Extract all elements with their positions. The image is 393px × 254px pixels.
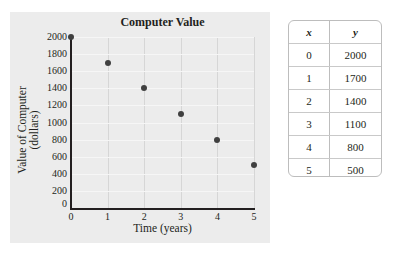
gridline-horizontal (71, 105, 254, 106)
y-axis-label-line1: Value of Computer (16, 75, 28, 185)
y-axis (70, 37, 72, 209)
data-point (178, 111, 184, 117)
cell-x: 3 (289, 113, 330, 136)
data-point (68, 34, 74, 40)
table-row: 21400 (289, 90, 381, 113)
x-tick-label: 4 (211, 211, 223, 222)
gridline-horizontal (71, 37, 254, 38)
gridline-horizontal (71, 123, 254, 124)
y-tick-label: 1800 (27, 49, 67, 59)
x-tick-label: 3 (175, 211, 187, 222)
gridline-horizontal (71, 54, 254, 55)
y-axis-label: Value of Computer (dollars) (16, 75, 40, 185)
x-axis (70, 208, 255, 210)
cell-x: 2 (289, 90, 330, 113)
gridline-horizontal (71, 174, 254, 175)
table-row: 31100 (289, 113, 381, 136)
data-point (105, 60, 111, 66)
cell-y: 1100 (330, 113, 382, 136)
x-tick-label: 5 (248, 211, 260, 222)
values-table: x y 02000 11700 21400 31100 4800 5500 (288, 20, 382, 177)
cell-x: 4 (289, 136, 330, 159)
x-tick-label: 1 (102, 211, 114, 222)
gridline-horizontal (71, 157, 254, 158)
table-row: 4800 (289, 136, 381, 159)
chart-title: Computer Value (71, 15, 254, 30)
y-tick-label: 0 (27, 199, 67, 209)
cell-y: 800 (330, 136, 382, 159)
cell-x: 1 (289, 67, 330, 90)
gridline-vertical (254, 37, 255, 208)
cell-y: 500 (330, 159, 382, 178)
gridline-horizontal (71, 88, 254, 89)
table-row: 5500 (289, 159, 381, 178)
y-axis-label-line2: (dollars) (28, 75, 40, 185)
plot-area (71, 37, 254, 208)
cell-y: 2000 (330, 44, 382, 67)
gridline-horizontal (71, 71, 254, 72)
header-x: x (289, 21, 330, 44)
x-tick-label: 2 (138, 211, 150, 222)
table-row: 02000 (289, 44, 381, 67)
table-header-row: x y (289, 21, 381, 44)
gridline-horizontal (71, 140, 254, 141)
y-tick-label: 2000 (27, 32, 67, 42)
x-tick-label: 0 (65, 211, 77, 222)
cell-y: 1400 (330, 90, 382, 113)
cell-y: 1700 (330, 67, 382, 90)
y-tick-label: 200 (27, 186, 67, 196)
cell-x: 0 (289, 44, 330, 67)
gridline-horizontal (71, 191, 254, 192)
cell-x: 5 (289, 159, 330, 178)
table-row: 11700 (289, 67, 381, 90)
x-axis-label: Time (years) (71, 222, 254, 234)
header-y: y (330, 21, 382, 44)
